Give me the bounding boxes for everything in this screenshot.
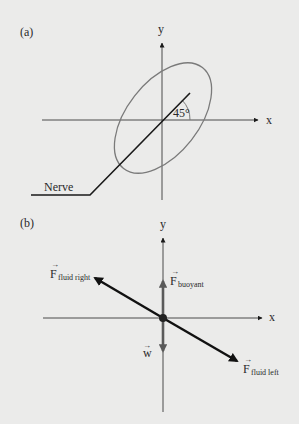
label-fluid-right: F → fluid right: [50, 260, 91, 282]
buoyant-symbol: F: [170, 274, 177, 288]
panel-a-y-label: y: [158, 22, 164, 36]
fluid-right-symbol: F: [50, 267, 57, 281]
fluid-right-subscript: fluid right: [58, 273, 91, 282]
figure: (a) y x 45° Nerve (b) y x: [0, 0, 299, 424]
buoyant-subscript: buoyant: [178, 280, 205, 289]
vector-arrow-icon: →: [171, 267, 179, 276]
force-fluid-left-arrow: [163, 318, 237, 361]
fluid-left-subscript: fluid left: [251, 368, 280, 377]
vector-arrow-icon: →: [51, 260, 59, 269]
fluid-left-symbol: F: [243, 362, 250, 376]
label-buoyant: F → buoyant: [170, 267, 205, 289]
nerve-label: Nerve: [44, 180, 73, 194]
label-weight: w →: [143, 341, 152, 360]
vector-arrow-icon: →: [143, 341, 151, 350]
vector-arrow-icon: →: [244, 355, 252, 364]
panel-a: (a) y x 45° Nerve: [20, 22, 272, 200]
panel-b-y-label: y: [160, 217, 166, 231]
object-center-dot: [159, 314, 167, 322]
panel-b-x-label: x: [269, 310, 275, 324]
panel-b-label: (b): [20, 216, 34, 230]
force-fluid-right-arrow: [95, 278, 163, 318]
panel-b: (b) y x F → fluid right F → buoyant w: [20, 216, 280, 412]
panel-a-label: (a): [20, 25, 33, 39]
label-fluid-left: F → fluid left: [243, 355, 280, 377]
panel-a-x-label: x: [266, 113, 272, 127]
diagram-canvas: (a) y x 45° Nerve (b) y x: [0, 0, 299, 424]
